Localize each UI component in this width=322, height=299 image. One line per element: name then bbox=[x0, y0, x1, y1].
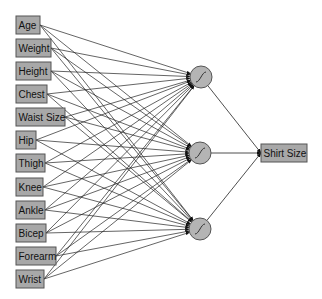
edge bbox=[207, 153, 261, 220]
neural-network-diagram: AgeWeightHeightChestWaist SizeHipThighKn… bbox=[0, 0, 322, 299]
input-node-label: Waist Size bbox=[19, 112, 66, 123]
edge bbox=[65, 117, 192, 222]
input-node: Forearm bbox=[16, 247, 56, 265]
edge bbox=[208, 86, 261, 153]
hidden-node bbox=[189, 218, 211, 240]
hidden-to-output-edges bbox=[207, 86, 261, 221]
input-node-label: Ankle bbox=[19, 205, 44, 216]
edge bbox=[51, 71, 190, 148]
edge bbox=[45, 163, 190, 225]
edge bbox=[46, 229, 189, 233]
edge bbox=[43, 83, 192, 187]
edge bbox=[56, 231, 189, 256]
edge bbox=[47, 94, 190, 149]
input-node-label: Wrist bbox=[19, 274, 42, 285]
input-node-label: Knee bbox=[19, 182, 43, 193]
hidden-node bbox=[190, 66, 212, 88]
input-node-label: Height bbox=[19, 66, 48, 77]
input-node: Bicep bbox=[16, 224, 46, 242]
output-layer: Shirt Size bbox=[261, 144, 307, 162]
input-node: Height bbox=[16, 62, 51, 80]
input-node-label: Chest bbox=[19, 89, 45, 100]
edge bbox=[51, 48, 190, 75]
output-node-label: Shirt Size bbox=[264, 148, 307, 159]
input-node-label: Age bbox=[19, 20, 37, 31]
input-to-hidden-edges bbox=[36, 25, 194, 279]
edge bbox=[44, 160, 191, 279]
edge bbox=[56, 159, 191, 256]
edge bbox=[44, 232, 190, 279]
input-node: Knee bbox=[16, 178, 43, 196]
input-node: Waist Size bbox=[16, 108, 66, 126]
input-node: Chest bbox=[16, 85, 47, 103]
input-node-label: Weight bbox=[19, 43, 50, 54]
edge bbox=[40, 25, 191, 146]
input-node-label: Thigh bbox=[19, 158, 44, 169]
input-node-label: Forearm bbox=[19, 251, 57, 262]
input-node: Hip bbox=[16, 131, 36, 149]
input-node-label: Bicep bbox=[19, 228, 44, 239]
edge bbox=[40, 25, 191, 74]
input-node-label: Hip bbox=[19, 135, 34, 146]
edge bbox=[56, 86, 194, 256]
edge bbox=[36, 140, 189, 152]
input-node: Weight bbox=[16, 39, 51, 57]
input-node: Age bbox=[16, 16, 40, 34]
edge bbox=[44, 86, 194, 279]
hidden-node bbox=[189, 142, 211, 164]
edge bbox=[65, 80, 190, 117]
input-node: Ankle bbox=[16, 201, 45, 219]
hidden-layer bbox=[189, 66, 212, 240]
input-node: Thigh bbox=[16, 154, 45, 172]
input-node: Wrist bbox=[16, 270, 44, 288]
